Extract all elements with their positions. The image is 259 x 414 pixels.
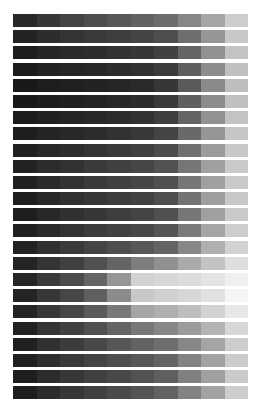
gray-patch <box>201 144 225 157</box>
gray-patch <box>84 370 108 383</box>
gray-patch <box>225 289 249 302</box>
gray-patch <box>60 241 84 254</box>
gray-patch <box>201 176 225 189</box>
gray-patch <box>84 305 108 318</box>
gray-patch <box>154 370 178 383</box>
gray-patch <box>60 95 84 108</box>
gray-patch <box>201 289 225 302</box>
gray-patch <box>84 127 108 140</box>
gray-patch <box>84 289 108 302</box>
gray-patch <box>107 95 131 108</box>
gray-patch <box>13 338 37 351</box>
gray-patch <box>201 354 225 367</box>
gray-patch <box>225 386 249 399</box>
gray-patch <box>131 30 155 43</box>
gray-patch <box>84 160 108 173</box>
gray-patch <box>37 144 61 157</box>
gray-patch <box>107 14 131 27</box>
gray-patch <box>84 273 108 286</box>
gray-strip <box>13 273 248 286</box>
gray-strip <box>13 370 248 383</box>
gray-patch <box>201 273 225 286</box>
gray-patch <box>84 192 108 205</box>
gray-patch <box>37 386 61 399</box>
gray-patch <box>201 224 225 237</box>
gray-patch <box>13 273 37 286</box>
gray-patch <box>37 354 61 367</box>
gray-patch <box>13 241 37 254</box>
gray-patch <box>84 257 108 270</box>
gray-patch <box>154 257 178 270</box>
gray-patch <box>201 338 225 351</box>
gray-patch <box>60 386 84 399</box>
gray-patch <box>37 160 61 173</box>
gray-patch <box>201 46 225 59</box>
gray-patch <box>178 111 202 124</box>
gray-patch <box>201 370 225 383</box>
gray-patch <box>13 354 37 367</box>
gray-strip <box>13 354 248 367</box>
gray-patch <box>13 111 37 124</box>
gray-patch <box>225 305 249 318</box>
gray-patch <box>13 224 37 237</box>
gray-patch <box>37 192 61 205</box>
gray-patch <box>107 79 131 92</box>
gray-patch <box>107 305 131 318</box>
gray-patch <box>154 241 178 254</box>
gray-patch <box>225 14 249 27</box>
gray-patch <box>178 386 202 399</box>
gray-patch <box>154 305 178 318</box>
gray-patch <box>225 192 249 205</box>
gray-strip <box>13 208 248 221</box>
gray-patch <box>131 386 155 399</box>
gray-strip <box>13 14 248 27</box>
gray-patch <box>201 208 225 221</box>
gray-patch <box>225 241 249 254</box>
gray-patch <box>178 127 202 140</box>
gray-patch <box>13 257 37 270</box>
gray-patch <box>131 305 155 318</box>
gray-patch <box>225 370 249 383</box>
gray-patch <box>178 144 202 157</box>
gray-patch <box>201 241 225 254</box>
gray-patch <box>13 289 37 302</box>
gray-patch <box>107 224 131 237</box>
gray-patch <box>37 176 61 189</box>
gray-patch <box>13 322 37 335</box>
gray-patch <box>154 30 178 43</box>
gray-patch <box>107 241 131 254</box>
gray-strip <box>13 30 248 43</box>
gray-patch <box>13 386 37 399</box>
gray-patch <box>154 144 178 157</box>
gray-patch <box>60 338 84 351</box>
gray-patch <box>178 305 202 318</box>
gray-patch <box>154 192 178 205</box>
gray-patch <box>178 370 202 383</box>
gray-patch <box>225 111 249 124</box>
gray-strip <box>13 127 248 140</box>
gray-strip <box>13 176 248 189</box>
gray-patch <box>154 111 178 124</box>
gray-patch <box>131 160 155 173</box>
gray-patch <box>107 354 131 367</box>
gray-patch <box>201 111 225 124</box>
gray-patch <box>84 30 108 43</box>
gray-patch <box>154 273 178 286</box>
gray-patch <box>60 30 84 43</box>
gray-patch <box>84 46 108 59</box>
gray-patch <box>107 338 131 351</box>
gray-patch <box>37 370 61 383</box>
gray-patch <box>37 63 61 76</box>
gray-patch <box>84 338 108 351</box>
gray-patch <box>37 338 61 351</box>
gray-patch <box>154 127 178 140</box>
gray-patch <box>154 322 178 335</box>
gray-patch <box>201 160 225 173</box>
gray-patch <box>131 144 155 157</box>
gray-patch <box>84 322 108 335</box>
gray-patch <box>154 95 178 108</box>
grayscale-step-chart <box>13 14 248 403</box>
gray-patch <box>60 370 84 383</box>
gray-patch <box>225 354 249 367</box>
gray-patch <box>107 176 131 189</box>
